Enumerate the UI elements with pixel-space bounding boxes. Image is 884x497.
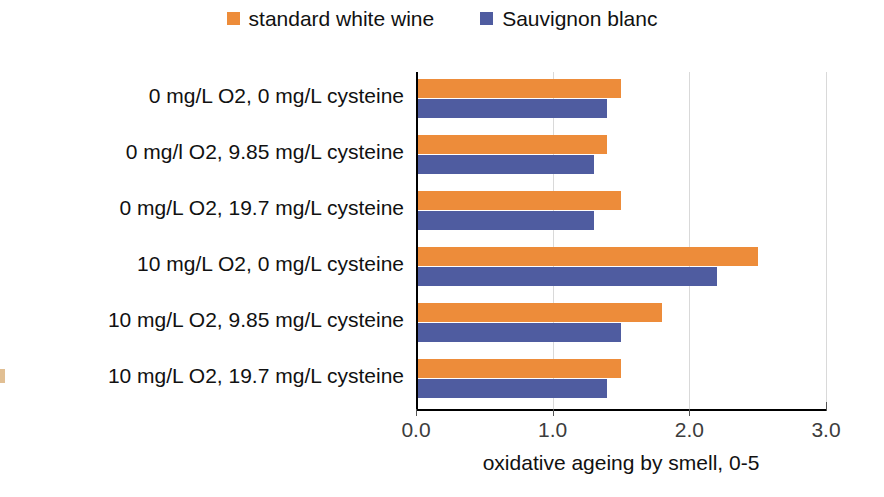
bar-group (416, 79, 826, 118)
bar (416, 155, 594, 174)
square-swatch-icon (480, 12, 493, 25)
x-axis-tick-label: 3.0 (811, 419, 840, 441)
bar (416, 303, 662, 322)
square-swatch-icon (227, 12, 240, 25)
bar (416, 323, 621, 342)
x-axis-tick-label: 1.0 (538, 419, 567, 441)
legend-item-standard-white-wine: standard white wine (227, 8, 435, 29)
category-label: 10 mg/L O2, 19.7 mg/L cysteine (0, 365, 404, 387)
bar (416, 359, 621, 378)
category-label: 0 mg/L O2, 0 mg/L cysteine (0, 85, 404, 107)
category-label: 0 mg/L O2, 19.7 mg/L cysteine (0, 197, 404, 219)
bar-group (416, 191, 826, 230)
category-label: 10 mg/L O2, 0 mg/L cysteine (0, 253, 404, 275)
x-axis-tick (689, 409, 690, 416)
x-axis-tick (553, 409, 554, 416)
bar-group (416, 135, 826, 174)
x-axis-line (416, 409, 826, 411)
bar (416, 79, 621, 98)
x-axis-title: oxidative ageing by smell, 0-5 (416, 452, 826, 474)
bar-chart: standard white wine Sauvignon blanc 0 mg… (0, 0, 884, 497)
bar (416, 247, 758, 266)
plot-area: 0.01.02.03.0 (416, 72, 826, 409)
bar (416, 191, 621, 210)
legend-label: Sauvignon blanc (502, 8, 657, 29)
chart-legend: standard white wine Sauvignon blanc (0, 8, 884, 29)
category-label: 10 mg/L O2, 9.85 mg/L cysteine (0, 309, 404, 331)
x-axis-tick-label: 0.0 (401, 419, 430, 441)
bar-group (416, 359, 826, 398)
bar-group (416, 303, 826, 342)
legend-label: standard white wine (249, 8, 435, 29)
edge-artifact (0, 369, 5, 383)
bar (416, 267, 717, 286)
bar (416, 211, 594, 230)
x-axis-tick (826, 402, 827, 411)
gridline (826, 72, 827, 409)
bar (416, 135, 607, 154)
bar (416, 99, 607, 118)
category-label: 0 mg/l O2, 9.85 mg/L cysteine (0, 141, 404, 163)
bar-group (416, 247, 826, 286)
x-axis-tick (416, 409, 417, 416)
legend-item-sauvignon-blanc: Sauvignon blanc (480, 8, 657, 29)
y-axis-line (416, 72, 418, 409)
bar (416, 379, 607, 398)
x-axis-tick-label: 2.0 (675, 419, 704, 441)
